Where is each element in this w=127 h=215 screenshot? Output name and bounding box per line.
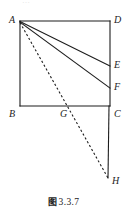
vertex-label-D: D	[114, 15, 121, 25]
figure-3-3-7: … A D E F B G C H 图3.3.7	[0, 0, 127, 215]
segment-AE	[20, 22, 110, 66]
vertex-label-B: B	[9, 109, 15, 119]
vertex-label-H: H	[112, 176, 119, 186]
vertex-label-C: C	[114, 109, 121, 119]
segment-AH	[20, 23, 108, 178]
segment-AF	[20, 22, 110, 88]
vertex-label-E: E	[114, 60, 120, 70]
segment-CH	[108, 106, 109, 178]
vertex-label-A: A	[9, 15, 15, 25]
geometry-diagram	[0, 0, 127, 192]
caption-number: 3.3.7	[59, 197, 80, 207]
figure-caption: 图3.3.7	[0, 196, 127, 208]
vertex-label-F: F	[114, 82, 120, 92]
vertex-label-G: G	[60, 109, 67, 119]
caption-tag: 图	[48, 197, 57, 207]
